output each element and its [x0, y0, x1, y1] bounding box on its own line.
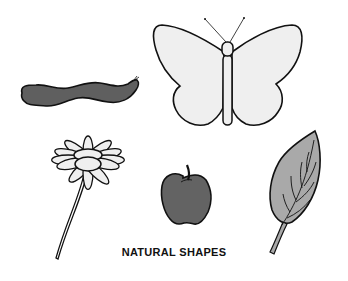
- butterfly-thorax: [222, 42, 233, 56]
- butterfly-body: [223, 55, 232, 125]
- natural-shapes-illustration: [0, 0, 348, 281]
- butterfly-antenna-tip-left: [204, 18, 206, 20]
- leaf-shape: [270, 131, 320, 254]
- apple-body: [161, 174, 210, 224]
- daisy-center: [75, 157, 101, 171]
- caterpillar-shape: [21, 76, 139, 106]
- butterfly-right-wing: [232, 25, 302, 125]
- caption-label: NATURAL SHAPES: [0, 246, 348, 258]
- butterfly-antenna-tip-right: [243, 17, 245, 19]
- daisy-shape: [52, 136, 125, 259]
- caterpillar-body: [21, 80, 138, 106]
- butterfly-antennae: [205, 18, 244, 42]
- butterfly-left-wing: [154, 25, 224, 125]
- leaf-blade: [270, 131, 320, 223]
- butterfly-shape: [154, 17, 302, 125]
- apple-shape: [161, 165, 210, 224]
